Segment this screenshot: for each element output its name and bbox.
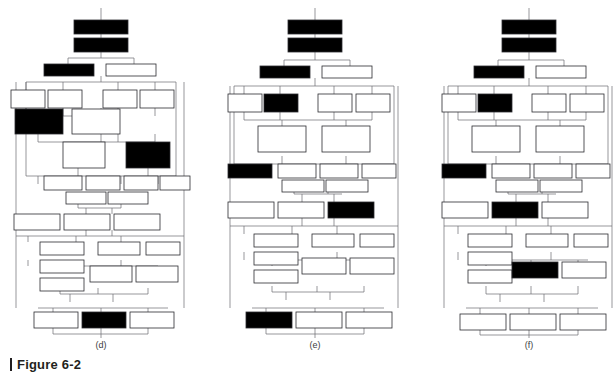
flow-box (146, 242, 180, 255)
flow-box (562, 262, 606, 278)
flow-box (64, 214, 110, 230)
flow-box (536, 66, 586, 78)
flowchart-svg-e (222, 8, 408, 338)
figure-page: (d) (e) (f) Figure 6-2 (0, 0, 614, 379)
caption-text: Figure 6-2 (17, 357, 81, 372)
flow-box-filled (44, 64, 94, 76)
flow-box (14, 214, 60, 230)
figure-caption: Figure 6-2 (10, 357, 81, 372)
flow-box (526, 234, 568, 247)
flow-box (140, 90, 174, 108)
flow-box (296, 312, 342, 328)
flow-box (278, 202, 324, 218)
flow-box (258, 126, 306, 152)
flow-box (130, 312, 174, 328)
flow-box (468, 252, 512, 265)
subfigure-label-f: (f) (436, 340, 614, 350)
flow-box (254, 234, 298, 247)
flow-box (86, 176, 120, 190)
flow-box (34, 312, 78, 328)
flow-box (570, 94, 604, 112)
flow-box-filled (246, 312, 292, 328)
flow-box-filled (442, 164, 486, 178)
flow-box (103, 90, 137, 108)
caption-rule-mark (10, 358, 12, 371)
flow-box (534, 164, 572, 178)
flow-box (322, 126, 370, 152)
flow-box-filled (502, 20, 556, 34)
flow-box (510, 314, 556, 330)
flow-box-filled (74, 20, 128, 34)
flow-box (40, 242, 84, 255)
flow-box (536, 126, 584, 152)
flow-box (11, 90, 45, 108)
flow-box-filled (260, 66, 310, 78)
flow-box-filled (82, 312, 126, 328)
flow-box (540, 180, 582, 192)
flow-box (532, 94, 566, 112)
subfigure-label-e: (e) (222, 340, 408, 350)
flow-box (106, 64, 156, 76)
flow-box (40, 278, 84, 291)
flow-box (48, 90, 82, 108)
flowchart-panel-e (222, 8, 408, 338)
flow-box (282, 180, 324, 192)
flow-box (228, 94, 262, 112)
flow-box-filled (478, 94, 512, 112)
flow-box-filled (126, 142, 170, 168)
flow-box-filled (228, 164, 272, 178)
flow-box (108, 192, 148, 204)
subfigure-label-d: (d) (8, 340, 194, 350)
flowchart-svg-d (8, 8, 194, 338)
flow-box-filled (288, 38, 342, 52)
flowchart-svg-f (436, 8, 614, 338)
flow-box-filled (288, 20, 342, 34)
flow-box-filled (502, 38, 556, 52)
flow-box (90, 266, 132, 282)
flow-box (362, 164, 396, 178)
flow-box (472, 126, 520, 152)
flow-box (254, 270, 298, 283)
flow-box-filled (15, 109, 63, 134)
flow-box (356, 94, 390, 112)
flow-box-filled (264, 94, 298, 112)
flow-box-filled (74, 38, 128, 52)
flow-box (492, 164, 530, 178)
flow-box (44, 176, 82, 190)
flow-box (542, 202, 588, 218)
flow-box (63, 142, 105, 168)
flow-box (254, 252, 298, 265)
flow-box (326, 180, 368, 192)
flow-box (574, 234, 608, 247)
flow-box (468, 270, 512, 283)
flow-box-filled (512, 262, 558, 278)
flow-box-filled (492, 202, 538, 218)
flow-box (460, 314, 506, 330)
flow-box (350, 258, 394, 274)
flow-box (228, 202, 274, 218)
flow-box (496, 180, 538, 192)
running-head (232, 0, 612, 5)
flow-box (136, 266, 178, 282)
flow-box-filled (474, 66, 524, 78)
flow-box (66, 192, 106, 204)
flowchart-panel-d (8, 8, 194, 338)
flow-box (72, 109, 120, 134)
flow-box (442, 94, 476, 112)
flow-box (318, 94, 352, 112)
flow-box (322, 66, 372, 78)
flowchart-panel-f (436, 8, 614, 338)
flow-box (442, 202, 488, 218)
flow-box (160, 176, 190, 190)
flow-box (346, 312, 392, 328)
flow-box (114, 214, 160, 230)
flow-box (40, 260, 84, 273)
flow-box (468, 234, 512, 247)
flow-box (560, 314, 606, 330)
flow-box (576, 164, 610, 178)
flow-box (124, 176, 158, 190)
flow-box (320, 164, 358, 178)
flow-box (98, 242, 140, 255)
flow-box (312, 234, 354, 247)
flow-box (278, 164, 316, 178)
